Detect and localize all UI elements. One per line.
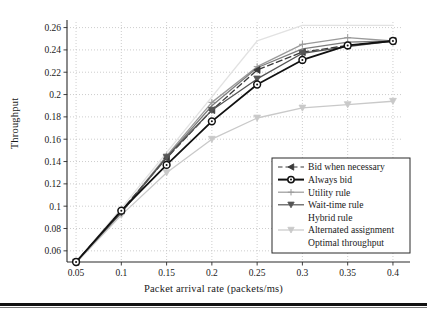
x-tick-label: 0.05 [68, 268, 85, 278]
y-tick-label: 0.26 [44, 23, 61, 33]
legend-label: Utility rule [308, 187, 350, 198]
y-tick-label: 0.2 [49, 90, 61, 100]
y-tick-label: 0.06 [44, 246, 61, 256]
y-tick-label: 0.24 [44, 45, 61, 55]
y-tick-label: 0.22 [44, 68, 61, 78]
legend-label: Wait-time rule [308, 199, 363, 210]
legend-label: Hybrid rule [308, 212, 353, 223]
y-tick-label: 0.18 [44, 112, 61, 122]
chart-legend: Bid when necessaryAlways bidUtility rule… [272, 158, 410, 253]
line-chart: 0.050.10.150.20.250.30.350.40.060.080.10… [0, 0, 427, 312]
figure-bottom-rule [0, 303, 427, 306]
legend-label: Alternated assignment [308, 224, 394, 235]
y-tick-label: 0.08 [44, 224, 61, 234]
legend-label: Optimal throughput [308, 237, 384, 248]
y-tick-label: 0.16 [44, 135, 61, 145]
legend-item-hybrid-rule[interactable]: Hybrid rule [308, 212, 353, 223]
x-tick-label: 0.35 [339, 268, 356, 278]
x-tick-label: 0.15 [158, 268, 175, 278]
figure-bottom-rule-secondary [0, 307, 427, 308]
x-tick-label: 0.25 [249, 268, 266, 278]
y-tick-label: 0.12 [44, 179, 61, 189]
x-tick-label: 0.3 [296, 268, 308, 278]
y-tick-label: 0.1 [49, 202, 61, 212]
y-tick-label: 0.14 [44, 157, 61, 167]
legend-label: Always bid [308, 174, 352, 185]
legend-label: Bid when necessary [308, 161, 385, 172]
x-tick-label: 0.1 [115, 268, 127, 278]
x-tick-label: 0.4 [387, 268, 399, 278]
legend-item-optimal-throughput[interactable]: Optimal throughput [308, 237, 384, 248]
x-tick-label: 0.2 [206, 268, 218, 278]
figure-container: Throughput Packet arrival rate (packets/… [0, 0, 427, 312]
